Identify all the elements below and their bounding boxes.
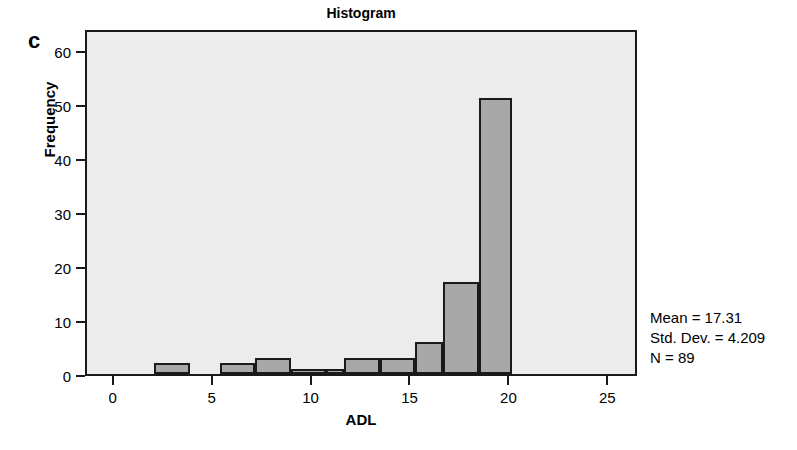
- statistics-annotation: Mean = 17.31 Std. Dev. = 4.209 N = 89: [650, 308, 765, 367]
- plot-area: [85, 30, 637, 376]
- histogram-bar: [479, 98, 513, 374]
- chart-title: Histogram: [85, 6, 637, 20]
- y-axis-tick-mark: [76, 375, 85, 377]
- histogram-bar: [344, 358, 380, 374]
- x-axis-tick-mark: [112, 376, 114, 385]
- y-axis-tick-label: 40: [35, 153, 71, 168]
- y-axis-tick-label: 0: [35, 369, 71, 384]
- x-axis-tick-mark: [606, 376, 608, 385]
- histogram-bar: [443, 282, 479, 374]
- y-axis-tick-label: 20: [35, 261, 71, 276]
- y-axis-tick-mark: [76, 267, 85, 269]
- y-axis-tick-mark: [76, 213, 85, 215]
- x-axis-tick-mark: [507, 376, 509, 385]
- y-axis-tick-label: 60: [35, 45, 71, 60]
- x-axis-tick-label: 20: [488, 390, 528, 405]
- x-axis-tick-label: 0: [93, 390, 133, 405]
- x-axis-tick-label: 15: [389, 390, 429, 405]
- y-axis-tick-mark: [76, 105, 85, 107]
- histogram-figure: c Histogram Frequency ADL 01020304050600…: [0, 0, 797, 450]
- bars-layer: [87, 32, 635, 374]
- x-axis-tick-label: 5: [192, 390, 232, 405]
- y-axis-tick-label: 50: [35, 99, 71, 114]
- stat-std-dev: Std. Dev. = 4.209: [650, 328, 765, 348]
- histogram-bar: [291, 369, 327, 374]
- x-axis-tick-mark: [310, 376, 312, 385]
- y-axis-tick-label: 10: [35, 315, 71, 330]
- histogram-bar: [380, 358, 416, 374]
- x-axis-tick-mark: [408, 376, 410, 385]
- y-axis-tick-mark: [76, 159, 85, 161]
- x-axis-tick-mark: [211, 376, 213, 385]
- stat-n: N = 89: [650, 348, 765, 368]
- stat-mean: Mean = 17.31: [650, 308, 765, 328]
- y-axis-tick-mark: [76, 321, 85, 323]
- y-axis-tick-label: 30: [35, 207, 71, 222]
- histogram-bar: [255, 358, 291, 374]
- histogram-bar: [154, 363, 190, 374]
- x-axis-tick-label: 10: [291, 390, 331, 405]
- histogram-bar: [326, 369, 344, 374]
- y-axis-tick-mark: [76, 51, 85, 53]
- x-axis-title: ADL: [85, 412, 637, 427]
- x-axis-tick-label: 25: [587, 390, 627, 405]
- histogram-bar: [415, 342, 443, 374]
- histogram-bar: [220, 363, 256, 374]
